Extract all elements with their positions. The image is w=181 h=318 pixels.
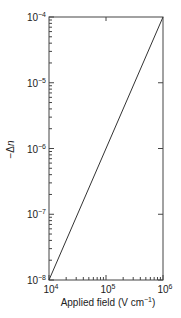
y-axis-label: −Δn (5, 140, 16, 159)
y-tick-label: 10−6 (27, 143, 46, 155)
series-group (49, 17, 163, 280)
x-tick-label: 104 (43, 283, 58, 295)
x-tick-label: 105 (100, 283, 115, 295)
x-tick-label: 106 (157, 283, 172, 295)
y-tick-label: 10−7 (27, 208, 46, 220)
x-axis-label: Applied field (V cm−1) (61, 296, 156, 308)
y-tick-label: 10−5 (27, 77, 46, 89)
series-line (49, 17, 163, 280)
y-tick-label: 10−4 (27, 11, 46, 23)
chart: 10410510610−410−510−610−710−8 Applied fi… (0, 0, 181, 318)
